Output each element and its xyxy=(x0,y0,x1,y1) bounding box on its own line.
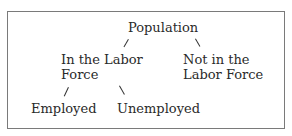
node-label-line: Labor Force xyxy=(183,67,263,82)
node-employed: Employed xyxy=(31,101,96,116)
node-label-line: Force xyxy=(61,67,143,82)
node-label-line: Not in the xyxy=(183,52,263,67)
node-in-labor-force: In the Labor Force xyxy=(61,52,143,82)
node-not-in-labor-force: Not in the Labor Force xyxy=(183,52,263,82)
node-population: Population xyxy=(128,20,198,35)
node-label-line: In the Labor xyxy=(61,52,143,67)
node-unemployed: Unemployed xyxy=(117,101,200,116)
